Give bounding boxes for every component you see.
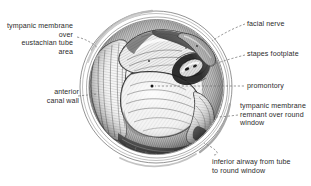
label-promontory: promontory: [247, 82, 311, 91]
label-anterior-canal-wall: anterior canal wall: [19, 88, 79, 105]
label-inferior-airway-from-tube-to-round-window: inferior airway from tube to round windo…: [212, 158, 311, 175]
label-facial-nerve: facial nerve: [247, 20, 311, 29]
label-tympanic-membrane-over-eustachian-tube-area: tympanic membrane over eustachian tube a…: [0, 22, 73, 56]
label-stapes-footplate: stapes footplate: [247, 50, 311, 59]
label-tympanic-membrane-remnant-over-round-window: tympanic membrane remnant over round win…: [240, 102, 311, 128]
middle-ear-illustration-figure: tympanic membrane over eustachian tube a…: [0, 0, 311, 186]
